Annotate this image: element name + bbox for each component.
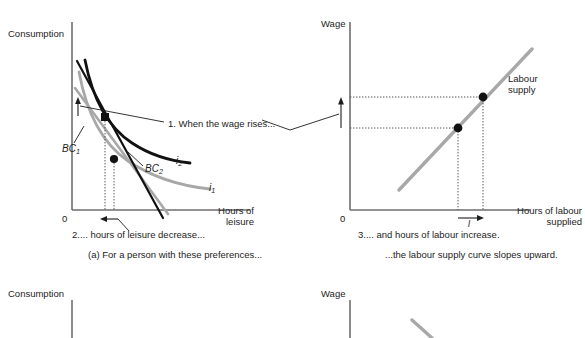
i2-label: i2 — [176, 155, 182, 169]
panel-a-graphics — [0, 0, 585, 338]
labour-supply-label-line1: Labour — [508, 73, 538, 84]
panel-b-origin-label: 0 — [340, 213, 345, 224]
annotation-hours-increase: 3.... and hours of labour increase. — [358, 229, 500, 240]
panel-d-partial-curve — [412, 320, 432, 338]
supply-point-initial — [454, 124, 463, 133]
panel-b-y-axis-label: Wage — [321, 18, 345, 29]
bc2-label-base: BC — [145, 163, 159, 174]
optimum-point-initial — [110, 155, 118, 163]
bc1-label-base: BC — [62, 143, 76, 154]
bc1-label-subscript: 1 — [76, 147, 80, 156]
supply-point-new — [479, 93, 488, 102]
bc1-label-leader — [74, 126, 84, 143]
i2-label-subscript: 2 — [178, 159, 182, 168]
bc2-label: BC2 — [145, 163, 163, 177]
bc1-label: BC1 — [62, 143, 80, 157]
indifference-curve-2 — [85, 60, 190, 163]
economics-figure-labour-supply: Consumption 0 Hours of leisure BC1 BC2 i… — [0, 0, 585, 338]
panel-d-y-axis-label: Wage — [321, 288, 345, 299]
leisure-decrease-arrow-head — [100, 216, 107, 222]
panel-c-y-axis-label: Consumption — [8, 288, 64, 299]
panel-a-x-axis-label-line2: leisure — [200, 216, 254, 227]
labour-supply-label-line2: supply — [508, 84, 535, 95]
panel-a-caption: (a) For a person with these preferences.… — [88, 249, 262, 260]
panel-b-x-axis-label-line1: Hours of labour — [504, 205, 582, 216]
hours-increase-arrow-head — [477, 215, 484, 221]
panel-b-wage-rise-arrow-head — [338, 97, 344, 105]
panel-a-origin-label: 0 — [62, 213, 67, 224]
cross-panel-connector — [290, 114, 339, 130]
panel-a-y-axis-label: Consumption — [8, 28, 64, 39]
panel-a-x-axis-label-line1: Hours of — [200, 205, 254, 216]
wage-rise-arrow-head — [75, 97, 81, 104]
bc2-label-subscript: 2 — [159, 167, 163, 176]
i1-label: i1 — [209, 182, 215, 196]
annotation-leisure-decrease: 2.... hours of leisure decrease... — [72, 229, 205, 240]
optimum-point-new — [101, 113, 109, 121]
panel-b-caption: ...the labour supply curve slopes upward… — [385, 249, 558, 260]
i1-label-subscript: 1 — [211, 186, 215, 195]
labour-supply-curve — [399, 49, 532, 190]
panel-b-x-axis-label-line2: supplied — [504, 216, 582, 227]
annotation-wage-rises: 1. When the wage rises... — [168, 118, 275, 129]
